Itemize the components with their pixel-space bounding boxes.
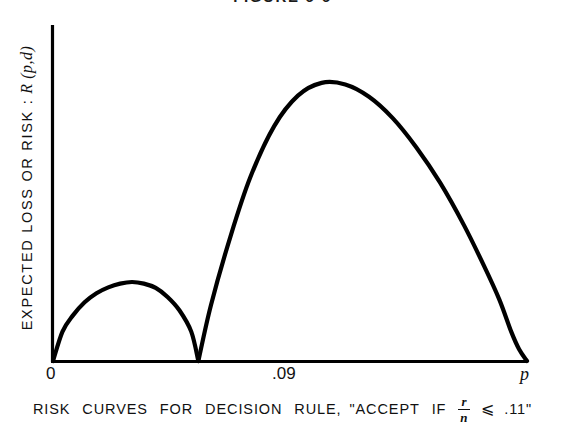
x-tick-label-axis-variable: p xyxy=(520,364,529,385)
x-tick-label-breakpoint: .09 xyxy=(272,364,296,384)
risk-curve-plot xyxy=(0,0,565,426)
caption-quote-accept: "ACCEPT xyxy=(349,401,419,417)
caption-less-or-equal-symbol: ⩽ xyxy=(481,400,495,417)
risk-curve-right-lobe xyxy=(198,82,527,361)
fraction-denominator: n xyxy=(458,410,470,424)
caption-word-curves: CURVES xyxy=(82,401,148,417)
risk-curve-left-lobe xyxy=(53,282,198,361)
caption-word-rule: RULE, xyxy=(294,401,341,417)
fraction-numerator: r xyxy=(458,395,470,410)
caption-word-risk: RISK xyxy=(33,401,70,417)
figure-caption: RISK CURVES FOR DECISION RULE, "ACCEPT I… xyxy=(0,396,565,425)
x-tick-label-origin: 0 xyxy=(46,364,55,384)
caption-word-decision: DECISION xyxy=(205,401,282,417)
figure-root: FIGURE 6-6 EXPECTED LOSS OR RISK :R (p,d… xyxy=(0,0,565,426)
caption-word-for: FOR xyxy=(160,401,193,417)
caption-word-if: IF xyxy=(432,401,447,417)
caption-quote-close: " xyxy=(526,401,532,417)
caption-threshold-value: .11 xyxy=(504,401,526,417)
caption-fraction-r-over-n: r n xyxy=(458,395,470,424)
